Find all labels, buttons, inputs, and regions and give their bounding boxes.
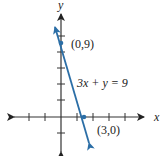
- coordinate-graph: y x (0,9) (3,0) 3x + y = 9: [0, 0, 164, 156]
- point-y-intercept-label: (0,9): [71, 37, 94, 51]
- y-axis: [57, 14, 65, 152]
- equation-label: 3x + y = 9: [76, 76, 128, 90]
- point-x-intercept: [82, 115, 87, 120]
- y-axis-label: y: [57, 0, 64, 12]
- x-axis: [14, 113, 144, 121]
- x-axis-label: x: [153, 110, 160, 124]
- point-y-intercept: [59, 41, 64, 46]
- point-x-intercept-label: (3,0): [97, 123, 120, 137]
